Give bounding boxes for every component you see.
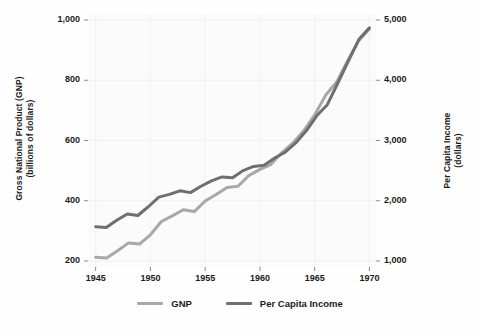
legend-label: GNP (171, 298, 192, 309)
y-axis-left-tick-label: 1,000 (34, 14, 80, 24)
legend-item[interactable]: GNP (137, 298, 192, 309)
y-axis-right-tick-label: 3,000 (384, 135, 430, 145)
y-axis-right-title: Per Capita Income (dollars) (442, 91, 463, 211)
chart-figure: Gross National Product (GNP) (billions o… (0, 0, 480, 332)
y-axis-right-tick-label: 5,000 (384, 14, 430, 24)
x-axis-tick-label: 1970 (349, 273, 389, 283)
legend-color-swatch (137, 302, 163, 305)
x-axis-tick-label: 1955 (185, 273, 225, 283)
y-axis-left-tick-label: 600 (34, 135, 80, 145)
y-axis-left-tick-label: 800 (34, 74, 80, 84)
y-axis-left-title: Gross National Product (GNP) (billions o… (14, 69, 35, 209)
y-axis-left-title-line2: (billions of dollars) (24, 99, 34, 177)
y-axis-left-tick-label: 200 (34, 255, 80, 265)
x-axis-tick-label: 1950 (130, 273, 170, 283)
y-axis-right-title-line2: (dollars) (452, 133, 462, 167)
x-axis-tick-label: 1945 (76, 273, 116, 283)
legend-label: Per Capita Income (260, 298, 343, 309)
y-axis-right-tick-label: 4,000 (384, 74, 430, 84)
legend-color-swatch (226, 302, 252, 305)
y-axis-left-tick-label: 400 (34, 195, 80, 205)
y-axis-left-title-line1: Gross National Product (GNP) (14, 76, 24, 200)
y-axis-right-tick-label: 2,000 (384, 195, 430, 205)
chart-legend: GNPPer Capita Income (0, 298, 480, 309)
x-axis-tick-label: 1965 (295, 273, 335, 283)
x-axis-tick-label: 1960 (240, 273, 280, 283)
y-axis-right-title-line1: Per Capita Income (442, 113, 452, 189)
legend-item[interactable]: Per Capita Income (226, 298, 343, 309)
y-axis-right-tick-label: 1,000 (384, 255, 430, 265)
